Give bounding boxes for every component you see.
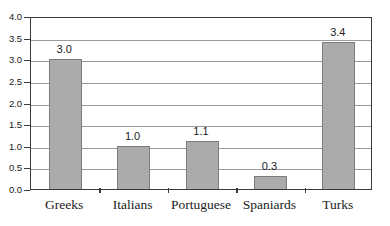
y-axis-tick: [24, 190, 30, 191]
plot-area: [30, 17, 372, 190]
bar-value-label: 3.0: [34, 44, 94, 55]
y-axis-tick-label: 2.0: [0, 99, 22, 109]
bar: [186, 141, 219, 189]
y-axis-tick-label: 1.0: [0, 142, 22, 152]
bar-value-label: 1.0: [103, 131, 163, 142]
bar-chart: 0.00.51.01.52.02.53.03.54.0 3.01.01.10.3…: [0, 0, 390, 226]
bar: [322, 42, 355, 189]
x-axis-category-label: Turks: [288, 198, 388, 212]
gridline: [31, 40, 371, 41]
gridline: [31, 83, 371, 84]
y-axis-tick-label: 3.0: [0, 55, 22, 65]
bar: [49, 59, 82, 189]
x-axis-tick: [305, 188, 307, 193]
bar: [117, 146, 150, 189]
y-axis-tick-label: 0.5: [0, 163, 22, 173]
y-axis-tick-label: 1.5: [0, 120, 22, 130]
gridline: [31, 105, 371, 106]
x-axis-tick: [99, 188, 101, 193]
bar: [254, 176, 287, 189]
x-axis-tick: [168, 188, 170, 193]
y-axis-tick-label: 4.0: [0, 12, 22, 22]
bar-value-label: 1.1: [171, 126, 231, 137]
y-axis-tick-label: 3.5: [0, 34, 22, 44]
y-axis-tick-label: 0.0: [0, 185, 22, 195]
bar-value-label: 0.3: [239, 161, 299, 172]
bar-value-label: 3.4: [308, 27, 368, 38]
x-axis-tick: [236, 188, 238, 193]
y-axis-tick-label: 2.5: [0, 77, 22, 87]
gridline: [31, 61, 371, 62]
